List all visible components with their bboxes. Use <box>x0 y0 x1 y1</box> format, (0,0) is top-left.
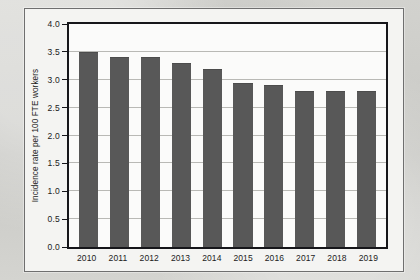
x-axis-tick-label: 2011 <box>102 253 133 269</box>
y-axis-tick <box>62 135 69 136</box>
y-axis-tick-label: 3.0 <box>48 75 60 85</box>
bar-2012 <box>141 57 160 247</box>
y-axis-tick-label: 3.5 <box>48 47 60 57</box>
y-axis-title: Incidence rate per 100 FTE workers <box>29 22 43 249</box>
y-axis-tick-label: 0.5 <box>48 214 60 224</box>
bar-series <box>69 24 386 247</box>
bar-column <box>73 24 104 247</box>
bar-column <box>104 24 135 247</box>
y-axis-tick-label: 2.0 <box>48 131 60 141</box>
y-axis-tick <box>62 79 69 80</box>
x-axis-tick-label: 2019 <box>353 253 384 269</box>
y-axis-tick <box>62 107 69 108</box>
bar-2019 <box>357 91 376 247</box>
y-axis-tick-label: 2.5 <box>48 103 60 113</box>
x-axis-tick-label: 2017 <box>290 253 321 269</box>
bar-column <box>197 24 228 247</box>
y-axis-tick <box>62 191 69 192</box>
bar-2013 <box>172 63 191 247</box>
bar-2011 <box>110 57 129 247</box>
bar-column <box>351 24 382 247</box>
bar-column <box>166 24 197 247</box>
x-axis-tick-labels: 2010201120122013201420152016201720182019 <box>67 253 388 269</box>
y-axis-tick <box>62 247 69 248</box>
chart-frame: Incidence rate per 100 FTE workers 0.00.… <box>24 8 404 272</box>
x-axis-tick-label: 2012 <box>134 253 165 269</box>
plot-area: 0.00.51.01.52.02.53.03.54.0 <box>67 22 388 249</box>
y-axis-tick <box>62 24 69 25</box>
y-axis-tick-label: 4.0 <box>48 19 60 29</box>
y-axis-tick-label: 0.0 <box>48 242 60 252</box>
bar-2010 <box>79 52 98 247</box>
bar-2018 <box>326 91 345 247</box>
x-axis-tick-label: 2015 <box>227 253 258 269</box>
y-axis-tick-label: 1.0 <box>48 186 60 196</box>
x-axis-tick-label: 2014 <box>196 253 227 269</box>
y-axis-tick <box>62 219 69 220</box>
y-axis-title-text: Incidence rate per 100 FTE workers <box>32 69 41 203</box>
bar-2015 <box>233 83 252 247</box>
y-axis-tick <box>62 163 69 164</box>
bar-column <box>289 24 320 247</box>
chart-page: Incidence rate per 100 FTE workers 0.00.… <box>0 0 420 280</box>
x-axis-tick-label: 2010 <box>71 253 102 269</box>
bar-2016 <box>264 85 283 247</box>
x-axis-tick-label: 2016 <box>259 253 290 269</box>
bar-column <box>320 24 351 247</box>
bar-column <box>258 24 289 247</box>
bar-column <box>228 24 259 247</box>
y-axis-tick-label: 1.5 <box>48 158 60 168</box>
x-axis-tick-label: 2018 <box>321 253 352 269</box>
y-axis-tick <box>62 51 69 52</box>
x-axis-tick-label: 2013 <box>165 253 196 269</box>
bar-2014 <box>203 69 222 247</box>
bar-column <box>135 24 166 247</box>
bar-2017 <box>295 91 314 247</box>
